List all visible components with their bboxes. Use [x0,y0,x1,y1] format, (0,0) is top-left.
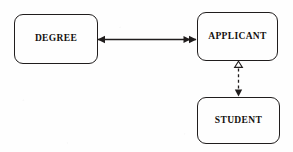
node-applicant-label: APPLICANT [208,32,267,42]
node-degree-label: DEGREE [35,34,77,44]
solid-arrowhead-icon [235,90,242,97]
node-degree[interactable]: DEGREE [14,14,98,64]
diagram-canvas: DEGREE APPLICANT STUDENT [0,0,293,152]
single-arrowhead-icon [98,36,106,43]
node-student[interactable]: STUDENT [197,97,280,144]
edge-applicant-student [235,61,243,96]
hollow-triangle-icon [235,61,243,67]
node-student-label: STUDENT [215,116,262,126]
node-applicant[interactable]: APPLICANT [197,12,278,61]
edge-degree-applicant [98,36,197,43]
